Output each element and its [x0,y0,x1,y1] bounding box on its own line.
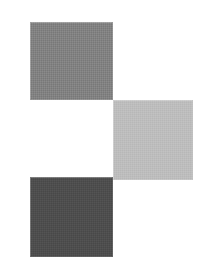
middle-square-fill [113,100,193,180]
top-square-fill [30,22,113,100]
image-canvas [0,0,211,275]
middle-square [113,100,193,180]
top-square [30,22,113,100]
bottom-square [30,177,113,257]
bottom-square-fill [30,177,113,257]
